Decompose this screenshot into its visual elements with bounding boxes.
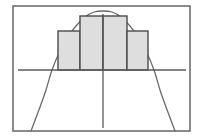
rect-1-outer-left — [58, 31, 80, 70]
rect-3-inner-right — [103, 16, 127, 70]
rect-4-outer-right — [127, 31, 148, 70]
figure-canvas: Riemann sum approximation of area under … — [0, 0, 204, 139]
rect-2-inner-left — [80, 16, 103, 70]
riemann-sum-figure: Riemann sum approximation of area under … — [0, 0, 204, 139]
